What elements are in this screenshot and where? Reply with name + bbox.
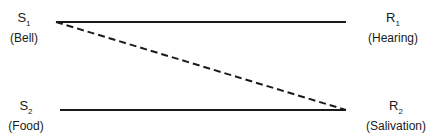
node-label: (Bell) xyxy=(4,31,44,46)
node-label: (Salivation) xyxy=(358,119,434,134)
node-symbol: S xyxy=(19,98,28,113)
node-r2: R2 (Salivation) xyxy=(358,98,434,134)
node-subscript: 2 xyxy=(28,107,32,116)
node-s2: S2 (Food) xyxy=(6,98,46,134)
node-s1: S1 (Bell) xyxy=(4,10,44,46)
node-label: (Food) xyxy=(6,119,46,134)
node-subscript: 1 xyxy=(395,19,399,28)
node-symbol: S xyxy=(17,10,26,25)
node-label: (Hearing) xyxy=(358,31,428,46)
node-subscript: 1 xyxy=(26,19,30,28)
edge-s1-r2-dashed xyxy=(56,22,346,110)
node-r1: R1 (Hearing) xyxy=(358,10,428,46)
node-subscript: 2 xyxy=(398,107,402,116)
